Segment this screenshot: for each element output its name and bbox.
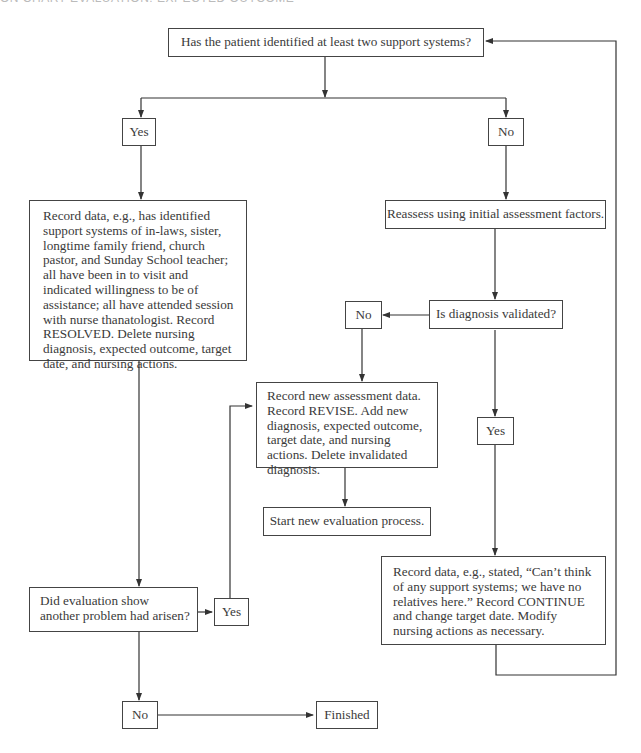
resolved-record-box: Record data, e.g., has identified suppor… — [29, 200, 247, 361]
clipped-page-header: ON CHART EVALUATION: EXPECTED OUTCOME — [0, 0, 641, 5]
question-support-systems: Has the patient identified at least two … — [168, 28, 484, 57]
question-another-problem: Did evaluation show another problem had … — [29, 587, 198, 632]
yes-support-box: Yes — [122, 118, 156, 146]
continue-record-box: Record data, e.g., stated, “Can’t think … — [381, 556, 606, 645]
no-support-box: No — [488, 118, 524, 146]
yes-validated-box: Yes — [477, 417, 514, 445]
question-diagnosis-validated: Is diagnosis validated? — [429, 300, 563, 329]
revise-record-box: Record new assessment data. Record REVIS… — [256, 382, 438, 468]
yes-problem-box: Yes — [214, 598, 249, 626]
finished-box: Finished — [316, 701, 378, 729]
no-problem-box: No — [122, 701, 158, 729]
no-validated-box: No — [345, 301, 382, 329]
start-new-evaluation-box: Start new evaluation process. — [263, 507, 431, 536]
reassess-box: Reassess using initial assessment factor… — [385, 200, 606, 229]
